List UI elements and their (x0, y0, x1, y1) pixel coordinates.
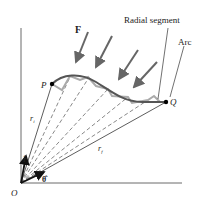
radial-segment-leader (158, 28, 168, 99)
work-along-curved-path-diagram: F Radial segment Arc P Q O ri rf r̂ θ̂ (0, 0, 205, 198)
point-q-label: Q (170, 97, 177, 107)
r-final-label: rf (98, 144, 103, 154)
dashed-radial-lines (21, 77, 148, 183)
force-label: F (75, 24, 81, 35)
radial-segment-label: Radial segment (124, 15, 180, 25)
point-q-dot (164, 100, 168, 104)
unit-r-label: r̂ (23, 155, 27, 164)
r-initial-label: ri (30, 114, 35, 124)
point-p-label: P (40, 80, 47, 90)
arc-label: Arc (178, 37, 192, 47)
origin-label: O (11, 188, 18, 198)
point-p-dot (50, 82, 54, 86)
arc-leader (170, 46, 184, 97)
